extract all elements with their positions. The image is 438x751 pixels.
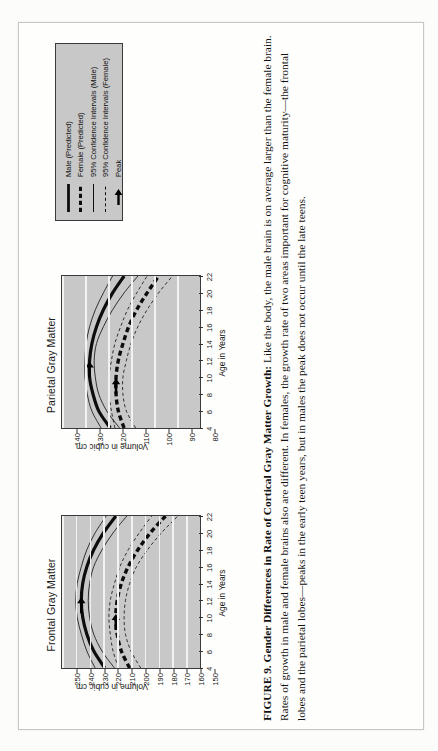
x-tick-label: 16 [205,563,214,571]
y-tick-mark [215,669,216,673]
gridline [186,516,188,668]
gridline [76,516,78,668]
x-axis-frontal: 46810121416182022 [199,517,219,669]
x-tick-mark [199,550,203,551]
y-tick-label: 80 [211,433,220,441]
y-tick-mark [169,429,170,433]
legend-item-label: Female (Predicted) [76,112,85,177]
gridline [172,516,174,668]
y-tick-mark [123,429,124,433]
x-tick-label: 8 [205,633,214,637]
y-tick-mark [77,429,78,433]
x-tick-label: 14 [205,340,214,348]
x-tick-mark [199,617,203,618]
legend-line-swatch [75,183,86,213]
plot-area-parietal [61,275,201,429]
peak-arrow-icon [113,183,124,213]
x-tick-label: 18 [205,307,214,315]
y-tick-mark [90,669,91,673]
x-tick-label: 14 [205,580,214,588]
gridline [90,516,92,668]
peak-arrow-annotation [85,361,93,377]
x-tick-label: 4 [205,427,214,431]
x-tick-mark [199,360,203,361]
chart-title-parietal: Parietal Gray Matter [45,267,57,463]
y-tick-label: 160 [197,673,206,686]
gridline [131,516,133,668]
x-tick-label: 20 [205,530,214,538]
legend-item: Peak [112,160,125,213]
x-tick-mark [199,651,203,652]
gridline [154,276,156,428]
legend-item: Male (Predicted) [62,121,75,213]
legend-line-swatch [88,183,99,213]
gridline [131,276,133,428]
page-sheet: Frontal Gray Matter 15016017018019020021… [18,22,424,730]
legend-item-label: 95% Confidence Intervals (Male) [89,67,98,177]
x-axis-label-parietal: Age in Years [217,277,227,429]
y-tick-mark [77,669,78,673]
y-tick-mark [104,669,105,673]
x-tick-mark [199,310,203,311]
scanned-page: Frontal Gray Matter 15016017018019020021… [0,0,438,751]
x-tick-label: 6 [205,650,214,654]
figure-stage: Frontal Gray Matter 15016017018019020021… [41,31,401,721]
y-axis-label-frontal: Volume in cubic cm [52,682,172,692]
x-tick-label: 22 [205,513,214,521]
x-tick-mark [199,634,203,635]
caption-figure-number: FIGURE 9. [261,665,273,721]
gridline [145,516,147,668]
chart-frontal-gray-matter: Frontal Gray Matter 15016017018019020021… [45,507,241,703]
series-line [116,276,159,428]
legend-item: Female (Predicted) [74,112,87,213]
x-tick-label: 10 [205,614,214,622]
y-tick-mark [187,669,188,673]
legend-item-label: 95% Confidence Intervals (Female) [101,58,110,177]
gridline [117,516,119,668]
x-tick-label: 12 [205,357,214,365]
gridline [62,276,64,428]
y-tick-mark [100,429,101,433]
x-tick-label: 8 [205,393,214,397]
x-tick-mark [199,293,203,294]
legend-item: 95% Confidence Intervals (Male) [87,67,100,213]
y-tick-mark [132,669,133,673]
gridline [159,516,161,668]
x-tick-mark [199,567,203,568]
plot-area-frontal [61,515,201,669]
x-tick-mark [199,327,203,328]
x-tick-label: 18 [205,547,214,555]
y-tick-mark [159,669,160,673]
legend-line-swatch [100,183,111,213]
legend-item: 95% Confidence Intervals (Female) [99,58,112,213]
peak-arrow-annotation [77,597,85,613]
y-tick-mark [118,669,119,673]
x-tick-mark [199,344,203,345]
x-axis-parietal: 46810121416182022 [199,277,219,429]
legend-item-label: Male (Predicted) [64,121,73,177]
chart-legend: Male (Predicted)Female (Predicted)95% Co… [55,43,123,221]
gridline [177,276,179,428]
x-axis-label-frontal: Age in Years [217,517,227,669]
gridline [103,516,105,668]
legend-line-swatch [63,183,74,213]
peak-arrow-annotation [112,378,120,394]
x-tick-mark [199,668,203,669]
series-line [88,516,127,668]
x-tick-label: 20 [205,290,214,298]
y-tick-mark [201,669,202,673]
x-tick-label: 10 [205,374,214,382]
y-tick-mark [146,669,147,673]
chart-parietal-gray-matter: Parietal Gray Matter 8090100110120130140… [45,267,241,463]
gridline [108,276,110,428]
x-tick-label: 6 [205,410,214,414]
caption-title: Gender Differences in Rate of Cortical G… [261,366,273,663]
x-tick-mark [199,533,203,534]
x-tick-mark [199,377,203,378]
x-tick-mark [199,276,203,277]
x-tick-label: 12 [205,597,214,605]
figure-graphics: Frontal Gray Matter 15016017018019020021… [41,31,246,721]
y-tick-label: 170 [183,673,192,686]
legend-item-label: Peak [114,160,123,177]
x-tick-mark [199,584,203,585]
